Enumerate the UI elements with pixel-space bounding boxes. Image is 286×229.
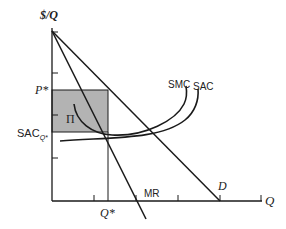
- y-axis-label: $/Q: [39, 8, 58, 22]
- mr-label: MR: [144, 188, 160, 199]
- q-star-label: Q*: [100, 206, 115, 220]
- x-axis-label: Q: [265, 193, 275, 208]
- profit-label: Π: [66, 112, 75, 126]
- demand-label: D: [217, 179, 227, 193]
- sac-subscript: Q*: [40, 134, 48, 142]
- monopoly-diagram: $/Q Q P* SACQ* Q* Π SMC SAC MR D: [0, 0, 286, 229]
- price-label: P*: [34, 83, 48, 97]
- smc-label: SMC: [168, 79, 190, 90]
- sac-label: SAC: [193, 81, 214, 92]
- sac-q-star-label: SACQ*: [17, 127, 48, 142]
